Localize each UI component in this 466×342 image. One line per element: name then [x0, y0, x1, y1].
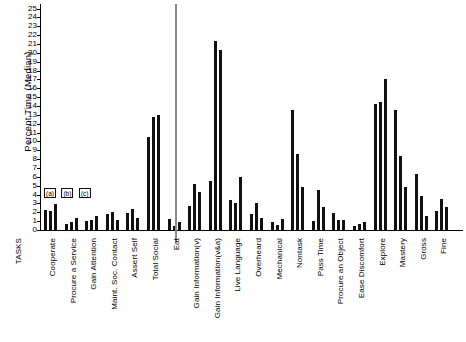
bar	[353, 226, 356, 230]
bar	[75, 218, 78, 230]
x-axis-category-label: Procure an Object	[336, 238, 345, 304]
x-axis-category-label: Gross	[419, 238, 428, 260]
bar	[188, 206, 191, 230]
bar	[363, 222, 366, 230]
bar	[322, 207, 325, 230]
x-axis-category-label: Ease Discomfort	[357, 238, 366, 298]
x-axis-category-label: Assert Self	[130, 238, 139, 278]
bar	[276, 225, 279, 230]
bar	[214, 41, 217, 230]
x-axis-category-label: Pass Time	[316, 238, 325, 276]
bar	[296, 154, 299, 230]
bar	[49, 211, 52, 230]
x-axis-category-label: Maint. Soc. Contact	[110, 238, 119, 310]
x-axis-line	[40, 230, 463, 231]
bar	[445, 207, 448, 230]
bar	[255, 203, 258, 230]
bar	[420, 196, 423, 230]
bar	[70, 222, 73, 230]
bar	[317, 190, 320, 230]
x-axis-category-label: Gain Information(v)	[192, 238, 201, 308]
plot-area	[41, 4, 463, 230]
x-axis-category-label: Gain Information(v&a)	[213, 238, 222, 318]
bar	[281, 219, 284, 230]
bar	[440, 199, 443, 230]
x-axis-category-label: Procure a Service	[69, 238, 78, 303]
bar	[54, 204, 57, 230]
bar	[342, 220, 345, 230]
x-axis-category-label: Total Social	[151, 238, 160, 280]
legend-item-c: (c)	[79, 188, 91, 198]
bar	[384, 79, 387, 230]
bar-chart-figure: Percent Time (Median) 012345678910111213…	[0, 0, 466, 342]
bar	[358, 224, 361, 230]
bar	[126, 213, 129, 230]
bar	[379, 102, 382, 230]
bar	[147, 137, 150, 230]
bar	[116, 220, 119, 230]
bar	[136, 218, 139, 230]
bar	[193, 184, 196, 230]
bar	[260, 218, 263, 230]
category-group-divider	[175, 4, 177, 242]
x-axis-category-label: Cooperate	[48, 238, 57, 276]
x-axis-category-label: Mastery	[398, 238, 407, 267]
legend-item-b: (b)	[61, 188, 73, 198]
bar	[425, 216, 428, 230]
x-axis-title: TASKS	[14, 238, 23, 264]
bar	[152, 117, 155, 230]
bar	[374, 104, 377, 230]
x-axis-category-label: Gain Attention	[89, 238, 98, 290]
x-axis-category-label: Eat	[172, 238, 181, 250]
x-axis-category-label: Mechanical	[275, 238, 284, 279]
bar	[90, 220, 93, 230]
x-axis-category-label: Live Language	[233, 238, 242, 292]
bar	[229, 200, 232, 230]
x-axis-category-label: Explore	[378, 238, 387, 266]
x-axis-category-label: Nontask	[295, 238, 304, 268]
bar	[234, 203, 237, 230]
bar	[271, 222, 274, 230]
bar	[415, 174, 418, 230]
bar	[404, 187, 407, 230]
bar	[435, 211, 438, 230]
bar	[332, 213, 335, 230]
bar	[131, 209, 134, 230]
bar	[337, 220, 340, 230]
bar	[219, 50, 222, 230]
bar	[168, 219, 171, 230]
bar	[178, 222, 181, 230]
bar	[95, 216, 98, 230]
x-axis-category-label: Overheard	[254, 238, 263, 277]
bar	[198, 192, 201, 230]
bar	[106, 214, 109, 230]
bar	[399, 156, 402, 230]
bar	[250, 214, 253, 230]
x-axis-category-label: Fine	[439, 238, 448, 254]
bar	[111, 212, 114, 230]
legend: (a) (b) (c)	[44, 188, 91, 198]
bar	[85, 221, 88, 230]
bar	[44, 210, 47, 230]
bar	[157, 115, 160, 230]
bar	[291, 110, 294, 230]
bar	[301, 187, 304, 230]
bar	[239, 177, 242, 230]
bar	[209, 181, 212, 230]
bar	[65, 224, 68, 230]
legend-item-a: (a)	[44, 188, 56, 198]
bar	[394, 110, 397, 230]
bar	[312, 221, 315, 230]
